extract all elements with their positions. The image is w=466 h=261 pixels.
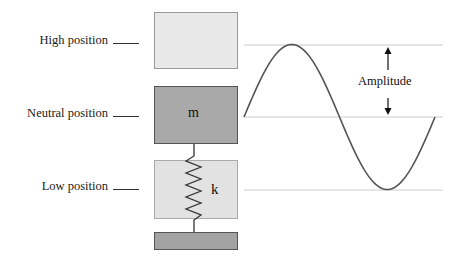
arrow-down-icon xyxy=(385,108,392,115)
diagram-graphics xyxy=(0,0,466,261)
arrow-up-icon xyxy=(385,47,392,54)
spring-icon xyxy=(186,144,201,232)
amplitude-label: Amplitude xyxy=(358,74,411,89)
spring-constant-label: k xyxy=(211,181,219,198)
